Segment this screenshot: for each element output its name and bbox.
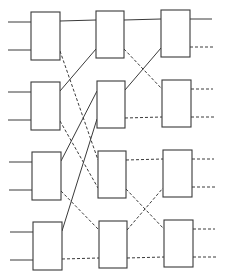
link-s1b3-s2b2-wire	[61, 91, 97, 161]
link-s1b4-s2b2-wire	[62, 119, 97, 231]
stage-1-switch-box-4	[33, 222, 62, 270]
link-s1b1-s2b3-wire	[60, 51, 98, 160]
stage-3-switch-box-1	[161, 10, 190, 57]
link-s1b4-s2b4-wire	[62, 258, 99, 259]
link-s2b2-s3b2-wire	[125, 117, 162, 118]
stage-3-switch-box-4	[164, 220, 193, 267]
stage-1-switch-box-3	[32, 152, 61, 200]
stage-1-switch-box-2	[31, 82, 60, 130]
stage-1-switch-box-1	[31, 12, 60, 60]
stage-2-switch-box-2	[97, 81, 125, 128]
stage-2-switch-box-4	[99, 221, 127, 268]
link-s2b1-s3b1-wire	[124, 19, 161, 20]
stage-2-switch-box-3	[98, 151, 126, 198]
stage-3-switch-box-2	[162, 80, 191, 127]
link-s1b3-s2b4-wire	[61, 191, 99, 230]
link-s1b2-s2b1-wire	[60, 49, 96, 91]
switch-boxes	[31, 10, 193, 270]
link-s2b4-s3b4-wire	[127, 257, 164, 258]
link-s1b1-s2b1-wire	[60, 20, 96, 21]
link-s2b3-s3b3-wire	[126, 159, 163, 160]
stage-2-switch-box-1	[96, 11, 124, 58]
switching-network-diagram	[0, 0, 226, 279]
link-s2b2-s3b1-wire	[125, 48, 161, 90]
link-s2b4-s3b3-wire	[127, 188, 163, 230]
stage-3-switch-box-3	[163, 150, 192, 197]
